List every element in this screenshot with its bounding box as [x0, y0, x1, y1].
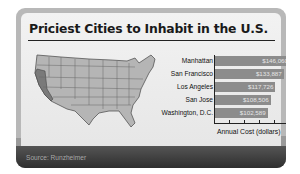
x-axis-label: Annual Cost (dollars) [217, 128, 280, 135]
title-underline [28, 40, 275, 41]
bar: $146,060 [215, 56, 286, 66]
bar-value-label: $117,726 [248, 82, 273, 92]
bar-value-label: $102,589 [240, 108, 266, 118]
category-label: San Jose [186, 95, 214, 105]
x-tick [274, 120, 275, 123]
bar-value-label: $108,506 [243, 95, 269, 105]
bar: $117,726 [215, 82, 275, 92]
category-label: Los Angeles [177, 82, 213, 92]
x-axis [214, 123, 286, 124]
category-label: San Francisco [171, 69, 213, 79]
bar-value-label: $146,060 [262, 56, 286, 66]
bar-value-label: $133,887 [256, 69, 282, 79]
category-label: Washington, D.C. [162, 108, 213, 118]
x-tick [229, 120, 230, 123]
bar-chart: Manhattan San Francisco Los Angeles San … [121, 53, 286, 143]
infographic-card: Priciest Cities to Inhabit in the U.S. M… [16, 8, 286, 168]
x-tick [244, 120, 245, 123]
bar: $102,589 [215, 108, 268, 118]
chart-panel: Priciest Cities to Inhabit in the U.S. M… [21, 13, 281, 153]
x-tick [259, 120, 260, 123]
bar: $108,506 [215, 95, 271, 105]
category-label: Manhattan [182, 56, 213, 66]
source-credit: Source: Runzheimer [26, 154, 86, 161]
chart-title: Priciest Cities to Inhabit in the U.S. [29, 21, 268, 36]
footer-band: Source: Runzheimer [16, 146, 286, 168]
bar: $133,887 [215, 69, 284, 79]
